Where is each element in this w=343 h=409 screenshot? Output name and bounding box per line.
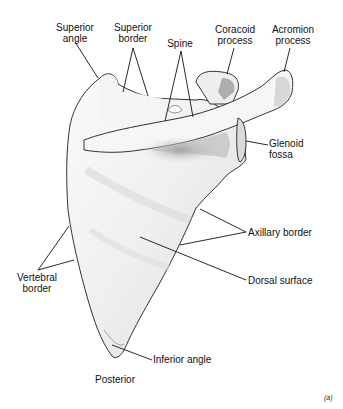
panel-label: (a) [324,394,333,401]
label-axillary-border: Axillary border [248,227,312,238]
label-superior-border: Superior border [108,22,158,44]
scapula-illustration [0,0,343,409]
label-acromion-process: Acromion process [267,24,319,46]
label-superior-angle: Superior angle [50,22,100,44]
label-inferior-angle: Inferior angle [153,354,211,365]
label-dorsal-surface: Dorsal surface [248,275,312,286]
label-glenoid-fossa: Glenoid fossa [269,138,303,160]
label-coracoid-process: Coracoid process [210,24,260,46]
glenoid-fossa [237,118,246,162]
label-spine: Spine [160,38,200,49]
view-caption: Posterior [95,374,135,385]
label-vertebral-border: Vertebral border [12,272,62,294]
